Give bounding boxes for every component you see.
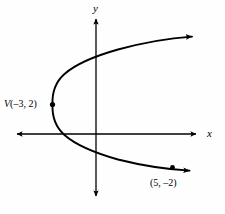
point-5-neg2-marker (170, 165, 175, 170)
annotated-points-group (50, 102, 175, 170)
vertex-point-marker (50, 102, 55, 107)
x-axis-label: x (207, 128, 212, 139)
point-5-neg2-label: (5, –2) (150, 178, 177, 188)
parabola-figure: y x V(–3, 2) (5, –2) (0, 0, 225, 214)
parabola-curve-group (52, 37, 192, 171)
vertex-label-coords: (–3, 2) (10, 98, 37, 109)
vertex-label: V(–3, 2) (4, 99, 37, 109)
y-axis-label: y (93, 3, 98, 14)
parabola-lower-branch (52, 105, 189, 171)
parabola-upper-branch (52, 37, 192, 105)
